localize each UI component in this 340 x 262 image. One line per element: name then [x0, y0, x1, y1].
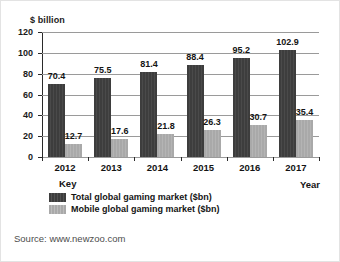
x-axis-tick-mark: [42, 157, 43, 161]
bar-group: 95.230.7: [227, 32, 273, 157]
bar-mobile[interactable]: 21.8: [157, 134, 174, 157]
bar-value-label: 17.6: [111, 127, 129, 136]
x-axis-tick-mark: [88, 157, 89, 161]
y-axis-tick-mark: [38, 32, 42, 33]
x-axis-tick-label: 2013: [101, 162, 122, 173]
bar-total[interactable]: 88.4: [187, 65, 204, 157]
bar-mobile[interactable]: 30.7: [250, 125, 267, 157]
y-axis-tick-mark: [38, 136, 42, 137]
bar-mobile[interactable]: 17.6: [111, 139, 128, 157]
bar-value-label: 35.4: [296, 108, 314, 117]
legend-title: Key: [59, 178, 220, 189]
x-axis-tick-mark: [273, 157, 274, 161]
x-axis-tick-label: 2017: [285, 162, 306, 173]
bar-value-label: 95.2: [232, 46, 250, 55]
y-axis-title: $ billion: [30, 15, 65, 25]
y-axis-tick-mark: [38, 95, 42, 96]
bar-value-label: 70.4: [48, 72, 66, 81]
y-axis-tick-label: 100: [18, 48, 33, 57]
bar-mobile[interactable]: 26.3: [204, 130, 221, 157]
bar-group: 102.935.4: [273, 32, 319, 157]
bar-total[interactable]: 102.9: [279, 50, 296, 157]
y-axis-tick-mark: [38, 115, 42, 116]
source-note: Source: www.newzoo.com: [14, 233, 125, 244]
x-axis-tick-mark: [134, 157, 135, 161]
bar-group: 88.426.3: [181, 32, 227, 157]
legend-label-mobile: Mobile global gaming market ($bn): [71, 204, 220, 214]
y-axis-tick-mark: [38, 53, 42, 54]
legend-item-mobile: Mobile global gaming market ($bn): [49, 204, 220, 214]
chart-legend: Key Total global gaming market ($bn) Mob…: [49, 178, 220, 216]
x-axis-tick-label: 2015: [193, 162, 214, 173]
bar-value-label: 30.7: [249, 113, 267, 122]
bar-value-label: 81.4: [140, 60, 158, 69]
x-axis-tick-mark: [181, 157, 182, 161]
x-axis-tick-mark: [319, 157, 320, 161]
plot-area: 70.412.775.517.681.421.888.426.395.230.7…: [42, 32, 319, 157]
y-axis-tick-mark: [38, 74, 42, 75]
bar-total[interactable]: 70.4: [48, 84, 65, 157]
legend-swatch-total-icon: [49, 193, 66, 202]
bar-group: 70.412.7: [42, 32, 88, 157]
legend-swatch-mobile-icon: [49, 205, 66, 214]
x-axis-tick-label: 2016: [239, 162, 260, 173]
bar-value-label: 21.8: [157, 122, 175, 131]
bar-value-label: 12.7: [65, 132, 83, 141]
bar-value-label: 102.9: [276, 38, 299, 47]
y-axis-tick-label: 60: [23, 90, 33, 99]
bar-value-label: 26.3: [203, 118, 221, 127]
chart-figure-card: $ billion 70.412.775.517.681.421.888.426…: [0, 0, 340, 262]
bar-total[interactable]: 81.4: [140, 72, 157, 157]
bar-value-label: 88.4: [186, 53, 204, 62]
bar-value-label: 75.5: [94, 66, 112, 75]
y-axis-tick-label: 80: [23, 69, 33, 78]
legend-label-total: Total global gaming market ($bn): [71, 192, 212, 202]
y-axis-tick-label: 20: [23, 132, 33, 141]
bar-total[interactable]: 75.5: [94, 78, 111, 157]
x-axis-title: Year: [300, 179, 320, 190]
bar-group: 81.421.8: [134, 32, 180, 157]
bar-total[interactable]: 95.2: [233, 58, 250, 157]
x-axis-tick-label: 2014: [147, 162, 168, 173]
bar-mobile[interactable]: 12.7: [65, 144, 82, 157]
y-axis-tick-label: 40: [23, 111, 33, 120]
x-axis-tick-label: 2012: [55, 162, 76, 173]
y-axis-tick-label: 120: [18, 28, 33, 37]
y-axis-tick-label: 0: [28, 153, 33, 162]
bar-mobile[interactable]: 35.4: [296, 120, 313, 157]
legend-item-total: Total global gaming market ($bn): [49, 192, 220, 202]
bar-group: 75.517.6: [88, 32, 134, 157]
x-axis-tick-mark: [227, 157, 228, 161]
